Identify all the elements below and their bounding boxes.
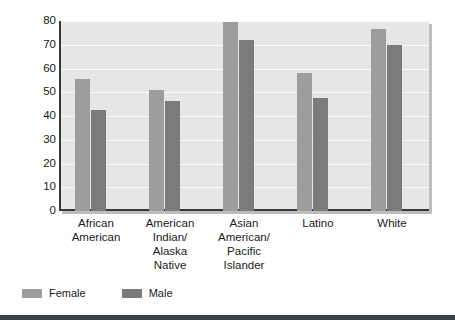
- bar-female: [149, 90, 164, 211]
- legend-swatch-icon: [122, 289, 142, 298]
- y-tick-label: 70: [30, 39, 56, 51]
- legend-swatch-icon: [22, 289, 42, 298]
- bar-female: [75, 79, 90, 211]
- bar-chart-figure: Percentage 01020304050607080 AfricanAmer…: [0, 0, 455, 322]
- bar-series-container: [59, 21, 429, 211]
- x-tick-label-line: Native: [133, 258, 207, 272]
- y-tick-label: 40: [30, 110, 56, 122]
- y-tick-label: 20: [30, 158, 56, 170]
- y-tick-label: 10: [30, 182, 56, 194]
- legend-label: Male: [149, 287, 173, 299]
- y-tick-label: 50: [30, 87, 56, 99]
- y-axis-tick-labels: 01020304050607080: [30, 21, 56, 211]
- y-tick-label: 0: [30, 205, 56, 217]
- x-tick-label: White: [355, 216, 429, 230]
- x-tick-label-line: American/: [207, 230, 281, 244]
- y-tick-label: 30: [30, 134, 56, 146]
- x-tick-label-line: American: [59, 230, 133, 244]
- footer-rule: [0, 315, 455, 320]
- x-tick-label-line: Pacific: [207, 244, 281, 258]
- x-axis-tick-labels: AfricanAmericanAmericanIndian/AlaskaNati…: [59, 216, 429, 286]
- x-tick-label-line: African: [59, 216, 133, 230]
- x-tick-label-line: Alaska: [133, 244, 207, 258]
- y-tick-label: 80: [30, 15, 56, 27]
- bar-group: [207, 21, 281, 211]
- x-tick-label-line: Asian: [207, 216, 281, 230]
- x-tick-label-line: Latino: [281, 216, 355, 230]
- bar-group: [281, 21, 355, 211]
- x-tick-label: AsianAmerican/PacificIslander: [207, 216, 281, 272]
- x-tick-label: AmericanIndian/AlaskaNative: [133, 216, 207, 272]
- chart-legend: FemaleMale: [22, 286, 209, 300]
- bar-female: [371, 29, 386, 211]
- x-tick-label: Latino: [281, 216, 355, 230]
- bar-male: [387, 45, 402, 211]
- legend-item-female[interactable]: Female: [22, 287, 86, 299]
- x-tick-label-line: Indian/: [133, 230, 207, 244]
- legend-label: Female: [49, 287, 86, 299]
- y-tick-label: 60: [30, 63, 56, 75]
- bar-group: [133, 21, 207, 211]
- bar-group: [355, 21, 429, 211]
- bar-male: [165, 101, 180, 211]
- x-tick-label-line: White: [355, 216, 429, 230]
- x-tick-label-line: American: [133, 216, 207, 230]
- bar-male: [313, 98, 328, 211]
- legend-item-male[interactable]: Male: [122, 287, 173, 299]
- bar-male: [91, 110, 106, 211]
- x-tick-label: AfricanAmerican: [59, 216, 133, 244]
- bar-female: [223, 22, 238, 211]
- bar-male: [239, 40, 254, 211]
- x-tick-label-line: Islander: [207, 258, 281, 272]
- bar-female: [297, 73, 312, 211]
- bar-group: [59, 21, 133, 211]
